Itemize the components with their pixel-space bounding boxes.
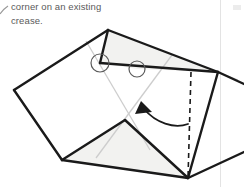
edge-offscreen-upper xyxy=(218,72,244,84)
partial-arrow-icon xyxy=(0,6,8,14)
origami-diagram xyxy=(0,0,244,187)
edge-offscreen-lower xyxy=(188,152,244,178)
screenshot-root: corner on an existing crease. xyxy=(0,0,244,187)
